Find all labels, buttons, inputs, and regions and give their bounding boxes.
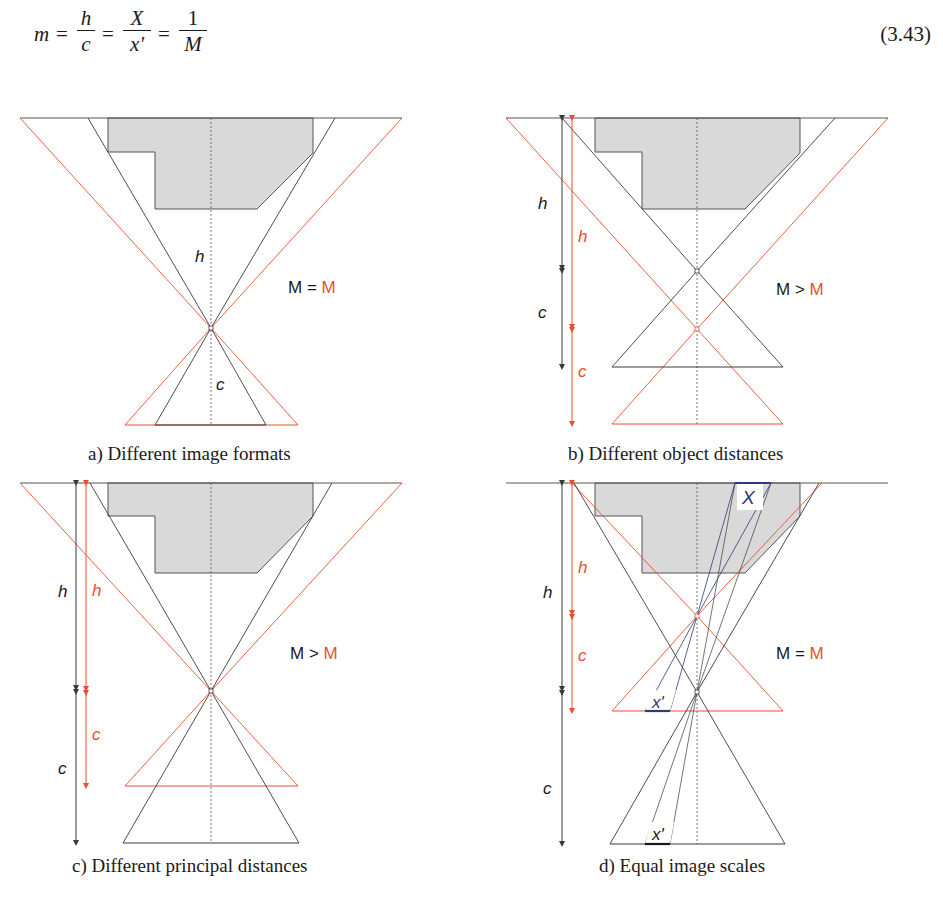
label-h-orange: h — [92, 581, 101, 600]
label-c-orange: c — [578, 362, 587, 381]
projection-center — [209, 326, 213, 330]
relation-right: M — [324, 644, 338, 663]
panel-d-diagram: X x' x' h c h c M = M — [506, 483, 888, 844]
caption-panel-a: a) Different image formats — [88, 443, 291, 465]
relation-left: M — [290, 644, 304, 663]
relation-text: M = M — [776, 644, 824, 663]
relation-right: M — [810, 644, 824, 663]
relation-op: > — [795, 280, 805, 299]
label-h-orange: h — [578, 227, 587, 246]
label-h-black: h — [538, 194, 547, 213]
object-shape — [595, 118, 800, 209]
black-projection-center — [695, 269, 699, 273]
object-shape — [108, 483, 313, 573]
label-c-black: c — [543, 779, 552, 798]
projection-center — [209, 689, 213, 693]
relation-left: M — [776, 280, 790, 299]
relation-right: M — [810, 280, 824, 299]
label-h-orange: h — [578, 558, 587, 577]
panel-b-diagram: h c h c M > M — [506, 118, 888, 425]
relation-op: = — [307, 278, 317, 297]
relation-text: M > M — [776, 280, 824, 299]
label-x-prime-black: x' — [651, 825, 665, 844]
object-shape — [595, 483, 800, 573]
relation-op: = — [795, 644, 805, 663]
label-c-orange: c — [92, 725, 101, 744]
relation-text: M = M — [288, 278, 336, 297]
label-h-black: h — [543, 583, 552, 602]
object-shape — [108, 118, 313, 209]
label-x-prime-orange: x' — [651, 693, 665, 712]
label-c-black: c — [58, 759, 67, 778]
label-h-black: h — [58, 582, 67, 601]
orange-projection-center — [695, 327, 699, 331]
label-c-black: c — [538, 303, 547, 322]
label-c-orange: c — [578, 646, 587, 665]
panel-a-diagram: h c M = M — [20, 118, 402, 425]
relation-left: M — [776, 644, 790, 663]
label-c: c — [216, 375, 225, 394]
relation-op: > — [309, 644, 319, 663]
relation-right: M — [322, 278, 336, 297]
relation-text: M > M — [290, 644, 338, 663]
label-h: h — [195, 247, 204, 266]
black-projection-center — [695, 690, 699, 694]
panel-c-diagram: h c h c M > M — [20, 483, 402, 843]
caption-panel-b: b) Different object distances — [568, 443, 783, 465]
caption-panel-d: d) Equal image scales — [599, 855, 765, 877]
caption-panel-c: c) Different principal distances — [72, 855, 307, 877]
relation-left: M — [288, 278, 302, 297]
label-X: X — [741, 487, 756, 508]
orange-projection-center — [695, 614, 699, 618]
